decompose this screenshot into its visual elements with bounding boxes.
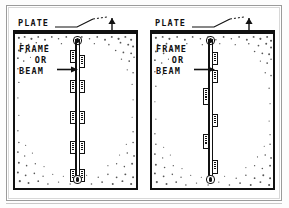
plate-label: PLATE: [18, 18, 49, 28]
member-cap-bottom: [73, 175, 82, 184]
sheet-bottom-rule: [6, 203, 282, 204]
member-cap-bottom: [206, 175, 215, 184]
frame-or-beam-leader-arrow: [57, 66, 79, 73]
frame-or-beam-member: [204, 36, 217, 184]
frame-or-beam-member: [71, 36, 84, 184]
detail-panel-left: PLATE: [9, 9, 142, 197]
plate-label: PLATE: [155, 18, 186, 28]
frame-or-beam-label-line-2: OR: [19, 55, 63, 66]
attachment-segment: [79, 111, 84, 124]
member-web-left: [208, 39, 210, 181]
attachment-segment: [203, 134, 208, 149]
attachment-segment: [70, 111, 75, 124]
frame-or-beam-label-line-1: FRAME: [19, 44, 63, 55]
detail-panel-right: PLATE: [146, 9, 279, 197]
attachment-segment: [212, 114, 217, 127]
attachment-segment: [70, 80, 75, 93]
frame-or-beam-leader-arrow: [194, 66, 216, 73]
attachment-segment: [79, 55, 84, 68]
attachment-segment: [212, 160, 217, 174]
figure-sheet: PLATE: [0, 0, 289, 208]
attachment-segment: [79, 80, 84, 93]
attachment-segment: [203, 88, 208, 105]
frame-or-beam-label-line-2: OR: [156, 55, 200, 66]
attachment-segment: [70, 141, 75, 154]
attachment-segment: [79, 141, 84, 154]
attachment-segment: [70, 50, 75, 63]
attachment-segment: [212, 52, 217, 65]
frame-or-beam-label-line-1: FRAME: [156, 44, 200, 55]
